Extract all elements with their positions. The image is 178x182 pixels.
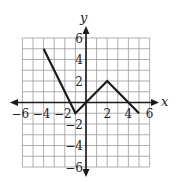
y-tick-label: −6 <box>65 161 83 175</box>
y-tick-label: −4 <box>65 139 83 153</box>
x-tick-label: −6 <box>12 107 30 121</box>
x-axis-right-arrow-icon <box>151 99 159 106</box>
y-tick-label: 2 <box>75 75 83 89</box>
x-tick-label: 6 <box>146 107 154 121</box>
y-axis-bottom-arrow-icon <box>83 169 90 177</box>
y-tick-label: 6 <box>75 32 83 46</box>
y-tick-label: −2 <box>65 118 83 132</box>
x-tick-label: 4 <box>125 107 133 121</box>
y-tick-label: 4 <box>75 53 83 67</box>
x-axis-left-arrow-icon <box>10 99 18 106</box>
y-axis-top-arrow-icon <box>83 26 90 34</box>
x-axis-label: x <box>161 94 169 109</box>
y-axis-label: y <box>79 10 88 25</box>
x-tick-label: −4 <box>33 107 51 121</box>
x-tick-label: 2 <box>103 107 111 121</box>
coordinate-plane: x y −6−4−2246 642−2−4−6 <box>0 0 178 182</box>
